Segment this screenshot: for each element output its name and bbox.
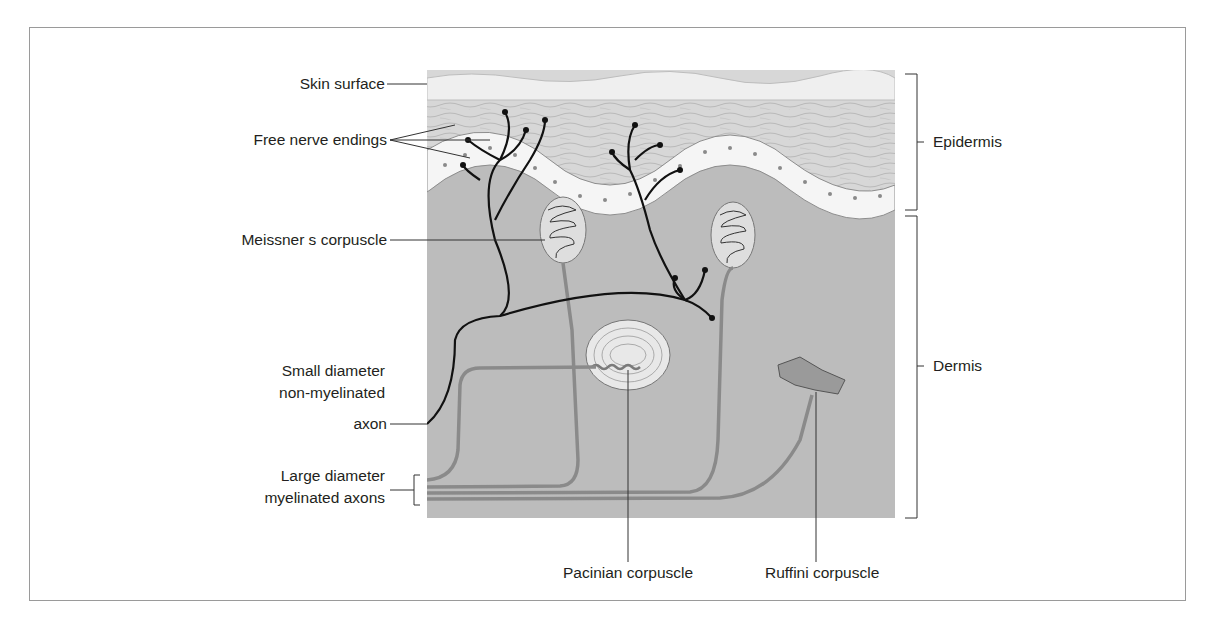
label-skin-surface: Skin surface: [230, 75, 385, 93]
label-large-axon-line1: Large diameter: [220, 467, 385, 485]
skin-cross-section: [427, 69, 895, 518]
label-small-axon-line3: axon: [220, 415, 387, 433]
label-free-nerve-endings: Free nerve endings: [200, 131, 387, 149]
label-ruffini-corpuscle: Ruffini corpuscle: [765, 564, 879, 582]
label-small-axon-line2: non-myelinated: [220, 384, 385, 402]
label-pacinian-corpuscle: Pacinian corpuscle: [563, 564, 693, 582]
label-small-axon-line1: Small diameter: [220, 362, 385, 380]
label-large-axon-line2: myelinated axons: [200, 489, 385, 507]
label-dermis: Dermis: [933, 357, 982, 375]
label-meissner-corpuscle: Meissner s corpuscle: [180, 231, 387, 249]
label-epidermis: Epidermis: [933, 133, 1002, 151]
skin-receptor-diagram: [0, 0, 1207, 625]
